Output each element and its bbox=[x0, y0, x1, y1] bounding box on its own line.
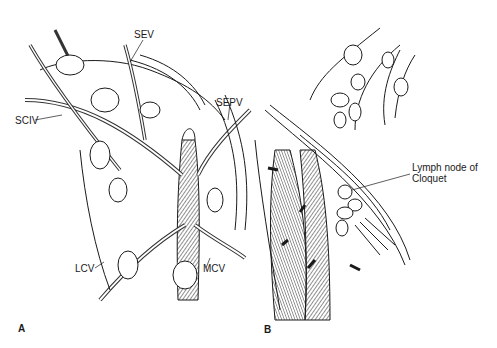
label-line-1: Lymph node of bbox=[412, 162, 478, 173]
label-sev: SEV bbox=[134, 29, 154, 40]
panel-a-drawing bbox=[25, 30, 250, 300]
panel-label-b: B bbox=[264, 324, 271, 335]
label-mcv: MCV bbox=[203, 263, 225, 274]
label-line-2: Cloquet bbox=[412, 173, 478, 184]
label-sciv: SCIV bbox=[15, 115, 38, 126]
label-lymph-node-of-cloquet: Lymph node of Cloquet bbox=[412, 162, 478, 184]
label-sepv: SEPV bbox=[216, 97, 243, 108]
label-lcv: LCV bbox=[75, 263, 94, 274]
panel-b-drawing bbox=[255, 28, 415, 320]
panel-label-a: A bbox=[18, 323, 25, 334]
